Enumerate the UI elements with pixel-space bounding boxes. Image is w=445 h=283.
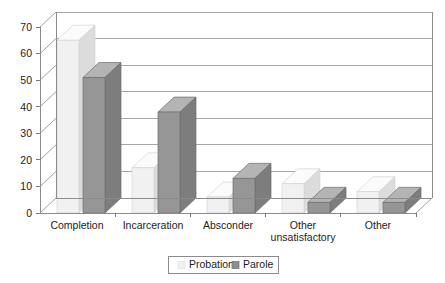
- y-tick-label-0: 0: [26, 207, 32, 219]
- y-tick-marks: [36, 27, 40, 213]
- y-tick-labels: 0 10 20 30 40 50 60 70: [20, 21, 32, 219]
- bar-front-face: [57, 40, 79, 213]
- legend-label-probation: Probation: [189, 258, 234, 270]
- category-label-incarceration: Incarceration: [123, 219, 184, 231]
- bar-side-face: [180, 97, 196, 213]
- chart-legend: Probation Parole: [168, 256, 278, 273]
- bar-front-face: [383, 202, 405, 213]
- category-label-other-unsatisfactory-line1: Other: [290, 219, 317, 231]
- bar-chart-svg: 0 10 20 30 40 50 60 70 Completion Incarc…: [0, 0, 445, 283]
- bar-completion-parole: [83, 62, 121, 213]
- category-label-absconder: Absconder: [203, 219, 254, 231]
- category-label-other-unsatisfactory-line2: unsatisfactory: [271, 231, 337, 243]
- bar-incarceration-parole: [158, 97, 196, 213]
- bar-front-face: [308, 202, 330, 213]
- y-tick-label-40: 40: [20, 101, 32, 113]
- chart-container: 0 10 20 30 40 50 60 70 Completion Incarc…: [0, 0, 445, 283]
- x-category-labels: Completion Incarceration Absconder Other…: [50, 219, 391, 243]
- x-tick-marks: [115, 213, 416, 217]
- category-label-other: Other: [365, 219, 392, 231]
- category-label-completion: Completion: [50, 219, 103, 231]
- bar-front-face: [83, 77, 105, 213]
- bar-front-face: [233, 178, 255, 213]
- legend-swatch-probation: [178, 262, 185, 269]
- y-tick-label-50: 50: [20, 74, 32, 86]
- bar-front-face: [132, 168, 154, 213]
- bar-front-face: [207, 197, 229, 213]
- legend-label-parole: Parole: [243, 258, 274, 270]
- y-tick-label-70: 70: [20, 21, 32, 33]
- y-tick-label-20: 20: [20, 154, 32, 166]
- bar-side-face: [105, 62, 121, 213]
- y-tick-label-60: 60: [20, 47, 32, 59]
- y-tick-label-10: 10: [20, 180, 32, 192]
- y-tick-label-30: 30: [20, 127, 32, 139]
- left-wall: [40, 12, 56, 213]
- bar-front-face: [357, 192, 379, 213]
- legend-swatch-parole: [232, 262, 239, 269]
